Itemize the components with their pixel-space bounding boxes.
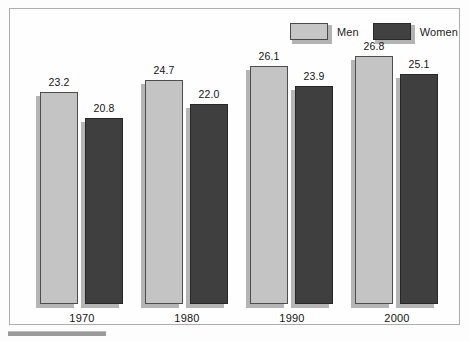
- bar-women-1980-rect: [190, 104, 228, 304]
- bar-group-1980: 24.7 22.0 1980: [137, 9, 227, 326]
- bar-value-men-2000: 26.8: [344, 40, 404, 52]
- scanned-page: Men Women 23.2: [0, 0, 470, 341]
- bar-men-1970-rect: [40, 92, 78, 304]
- bar-men-1990[interactable]: [250, 66, 288, 304]
- bar-value-men-1970: 23.2: [29, 76, 89, 88]
- bar-men-1980[interactable]: [145, 80, 183, 304]
- bar-value-women-1990: 23.9: [284, 70, 344, 82]
- bar-value-men-1990: 26.1: [239, 50, 299, 62]
- plot-area: 23.2 20.8 1970 24.7 22: [10, 9, 461, 326]
- bar-men-2000-rect: [355, 56, 393, 304]
- bar-men-1980-rect: [145, 80, 183, 304]
- x-tick-label-1980: 1980: [142, 312, 232, 324]
- bar-women-1970[interactable]: [85, 118, 123, 304]
- bar-women-2000-rect: [400, 74, 438, 304]
- chart-frame: Men Women 23.2: [9, 8, 460, 325]
- bar-women-1970-rect: [85, 118, 123, 304]
- x-tick-label-1970: 1970: [37, 312, 127, 324]
- bar-group-1990: 26.1 23.9 1990: [242, 9, 332, 326]
- bar-women-1990-rect: [295, 86, 333, 304]
- bar-value-men-1980: 24.7: [134, 64, 194, 76]
- footer-rule: [8, 331, 106, 336]
- bar-women-1990[interactable]: [295, 86, 333, 304]
- bar-group-1970: 23.2 20.8 1970: [32, 9, 122, 326]
- bar-men-1970[interactable]: [40, 92, 78, 304]
- bar-group-2000: 26.8 25.1 2000: [347, 9, 437, 326]
- bar-value-women-1970: 20.8: [74, 102, 134, 114]
- bar-men-1990-rect: [250, 66, 288, 304]
- bar-women-1980[interactable]: [190, 104, 228, 304]
- x-tick-label-2000: 2000: [352, 312, 442, 324]
- bar-men-2000[interactable]: [355, 56, 393, 304]
- x-tick-label-1990: 1990: [247, 312, 337, 324]
- bar-women-2000[interactable]: [400, 74, 438, 304]
- bar-value-women-1980: 22.0: [179, 88, 239, 100]
- bar-value-women-2000: 25.1: [389, 58, 449, 70]
